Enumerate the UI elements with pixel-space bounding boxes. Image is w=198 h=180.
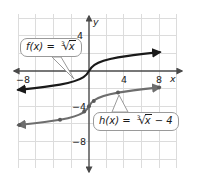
callout-h-trailing: − 4: [155, 115, 173, 126]
radical-index-f: 3: [61, 40, 65, 47]
coordinate-plane: −8 4 8 4 −4 −8 x y: [0, 0, 198, 180]
x-tick--8: −8: [16, 74, 30, 85]
equation-callout-h: h(x) = 3√x − 4: [93, 112, 179, 131]
x-tick-8: 8: [156, 74, 162, 85]
equation-callout-f: f(x) = 3√x: [20, 38, 82, 57]
radicand-f: x: [69, 40, 76, 52]
plot-point: [116, 91, 120, 95]
callout-h-lhs: h(x): [99, 115, 119, 126]
callout-h-equals: =: [122, 115, 130, 126]
x-axis-name: x: [169, 73, 176, 84]
callout-f-lhs: f(x): [26, 41, 43, 52]
plot-point: [58, 118, 62, 122]
plot-point: [18, 123, 22, 127]
cube-root-icon: 3√x: [58, 41, 76, 53]
radical-index-h: 3: [137, 114, 141, 121]
canvas-background: [0, 0, 198, 180]
y-axis-name: y: [92, 16, 99, 27]
cube-root-icon: 3√x: [134, 115, 152, 127]
y-tick--4: −4: [72, 101, 86, 112]
graph-figure: −8 4 8 4 −4 −8 x y f(x) = 3√x h(x) = 3√x: [0, 0, 198, 180]
x-tick-4: 4: [121, 74, 127, 85]
plot-point: [92, 99, 96, 103]
plot-point: [87, 104, 91, 108]
radicand-h: x: [145, 114, 152, 126]
callout-f-equals: =: [46, 41, 54, 52]
y-tick--8: −8: [72, 136, 86, 147]
plot-point: [157, 86, 161, 90]
